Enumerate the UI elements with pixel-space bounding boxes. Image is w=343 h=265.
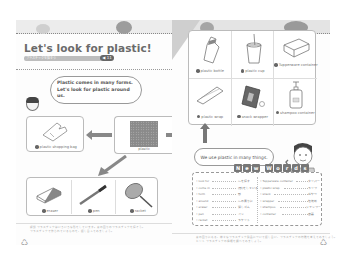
item-label: Tupperware container — [274, 63, 316, 67]
recycle-icon: ♺ — [21, 238, 28, 247]
decoration-icon — [116, 21, 132, 34]
arrow-left-icon — [92, 133, 112, 137]
plastic-bottle-icon — [201, 35, 221, 65]
audio-track-badge[interactable]: ◀ 11 — [100, 55, 114, 61]
grid-cell: shampoo container — [274, 79, 317, 127]
item-label: snack wrapper — [232, 115, 274, 119]
items-grid: plastic bottle plastic cup Tupperware co… — [188, 30, 316, 125]
item-label: plastic cup — [232, 69, 274, 73]
item-label: plastic wrap — [189, 115, 231, 119]
arrow-down-left-icon — [96, 155, 130, 177]
center-card-plastic: plastic — [114, 116, 172, 154]
footnote: プラスチックで作られているものを、話し合ってみましょう。 — [30, 230, 114, 234]
plastic-wrap-icon — [195, 85, 225, 105]
grid-cell: plastic bottle — [189, 31, 232, 79]
grid-cell: Tupperware container — [274, 31, 317, 79]
grid-cell: plastic cup — [232, 31, 275, 79]
item-label: plastic — [115, 147, 173, 151]
grid-cell: plastic wrap — [189, 79, 232, 127]
item-label: plastic shopping bag — [29, 145, 83, 149]
shopping-bag-icon — [41, 121, 69, 143]
item-label: plastic bottle — [189, 69, 231, 73]
right-page: plastic bottle plastic cup Tupperware co… — [172, 20, 330, 245]
textbook-spread: Let's look for plastic! プラスチックを探そう ◀ 11 … — [0, 0, 343, 265]
item-label: racket — [117, 209, 159, 213]
tupperware-icon — [281, 37, 311, 59]
arrow-up-icon — [200, 123, 210, 143]
subtitle-bar: プラスチックを探そう — [24, 56, 102, 61]
plastic-cup-icon — [244, 33, 264, 65]
item-label: eraser — [29, 209, 71, 213]
plastic-pellets-image — [130, 121, 158, 147]
left-page: Let's look for plastic! プラスチックを探そう ◀ 11 … — [16, 20, 172, 245]
item-label: shampoo container — [274, 111, 316, 115]
item-card-plastic-shopping-bag: plastic shopping bag — [26, 116, 84, 152]
footnote: ヒント プラスチックの種類を調べてみましょう。 — [196, 240, 263, 244]
shampoo-bottle-icon — [287, 80, 305, 110]
divider — [172, 233, 330, 234]
snack-wrapper-icon — [240, 82, 268, 110]
recycle-icon: ♺ — [320, 238, 327, 247]
items-card-bottom: eraser pen racket — [26, 177, 158, 216]
header-strip — [16, 20, 172, 34]
grid-cell: snack wrapper — [232, 79, 275, 127]
racket-icon — [123, 181, 155, 209]
divider — [16, 223, 172, 224]
item-label: pen — [73, 209, 115, 213]
decoration-icon — [36, 24, 50, 34]
girl-avatar — [26, 97, 39, 111]
eraser-icon — [35, 184, 63, 204]
vocabulary-box: • look for〜を探す • come in(形)をしている • form形… — [192, 172, 322, 226]
pen-icon — [77, 183, 109, 207]
divider — [16, 69, 172, 70]
speech-bubble: Plastic comes in many forms. Let's look … — [50, 76, 142, 104]
page-title: Let's look for plastic! — [24, 42, 152, 54]
